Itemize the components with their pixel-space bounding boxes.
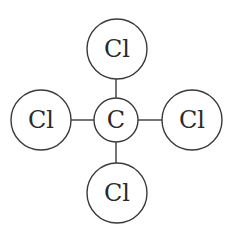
atom-c-center: C [94,98,138,142]
atom-cl-top: Cl [87,19,147,79]
atom-label: Cl [179,106,205,134]
atom-label: Cl [28,106,54,134]
atom-cl-right: Cl [162,90,222,150]
ccl4-structure-diagram: Cl Cl C Cl Cl [0,0,241,232]
atom-label: Cl [104,179,130,207]
atom-label: Cl [104,35,130,63]
atom-label: C [107,106,125,134]
atom-cl-left: Cl [11,90,71,150]
atom-cl-bottom: Cl [87,163,147,223]
